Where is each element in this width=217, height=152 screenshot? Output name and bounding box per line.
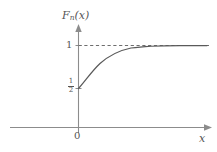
x-axis-arrowhead	[204, 124, 212, 130]
x-axis-title: x	[199, 133, 205, 144]
origin-label: 0	[74, 131, 80, 141]
fraction-denominator: 2	[68, 87, 74, 94]
fraction-one-half: 1 2	[68, 78, 74, 95]
y-axis-arrowhead	[75, 24, 81, 32]
y-axis-function-letter: F	[62, 9, 70, 22]
y-tick-label-half: 1 2	[66, 78, 76, 95]
y-axis-title: Fn(x)	[62, 10, 89, 22]
fraction-numerator: 1	[68, 78, 74, 85]
plot-canvas	[0, 0, 217, 152]
function-curve	[79, 46, 208, 89]
figure-container: Fn(x) x 1 1 2 0	[0, 0, 217, 152]
y-tick-label-one: 1	[66, 40, 72, 50]
y-axis-argument: (x)	[74, 9, 89, 22]
